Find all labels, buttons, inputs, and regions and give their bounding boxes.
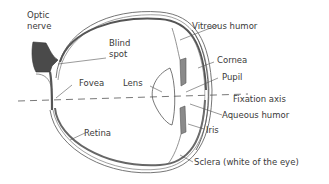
sclera-outer <box>50 12 212 173</box>
label-sclera: Sclera (white of the eye) <box>194 157 299 167</box>
optic-nerve <box>32 42 58 72</box>
ciliary-upper <box>172 28 180 60</box>
label-aqueous-humor: Aqueous humor <box>222 110 290 120</box>
label-pupil: Pupil <box>222 72 242 82</box>
label-blind-spot-1: Blind <box>109 38 130 48</box>
choroid-left <box>50 72 52 110</box>
label-fixation-axis: Fixation axis <box>233 94 286 104</box>
label-fovea: Fovea <box>79 78 104 88</box>
label-lens: Lens <box>123 78 143 88</box>
label-blind-spot-2: spot <box>109 49 128 59</box>
label-vitreous-humor: Vitreous humor <box>192 21 258 31</box>
eye-diagram: Optic nerve Blind spot Vitreous humor Co… <box>0 0 329 184</box>
label-optic-nerve-2: nerve <box>27 21 51 31</box>
label-retina: Retina <box>84 128 111 138</box>
label-iris: Iris <box>206 125 219 135</box>
label-optic-nerve-1: Optic <box>27 10 50 20</box>
iris-lower <box>180 106 186 134</box>
label-cornea: Cornea <box>217 55 247 65</box>
iris-upper <box>180 58 186 86</box>
